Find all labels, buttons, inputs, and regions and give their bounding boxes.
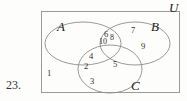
- set-a-label: A: [57, 20, 65, 33]
- set-c-label: C: [131, 79, 140, 92]
- region-value-b-only-right: 9: [141, 42, 145, 51]
- universal-set-label: U: [169, 1, 178, 14]
- region-value-b-and-c: 5: [113, 60, 117, 69]
- problem-number: 23.: [6, 79, 21, 91]
- region-value-a-and-c-low: 2: [84, 62, 88, 71]
- region-value-c-only: 3: [90, 77, 94, 86]
- region-value-b-only-top: 7: [131, 26, 135, 35]
- set-b-label: B: [151, 20, 159, 33]
- region-value-a-and-b-low: 10: [99, 38, 107, 46]
- region-value-a-and-c-high: 4: [89, 52, 93, 61]
- region-value-center: 8: [110, 34, 114, 42]
- venn-diagram-figure: 23. U A B C 1 3 2 4 5 6 10 8 7 9: [0, 0, 187, 101]
- region-value-outside: 1: [47, 69, 51, 78]
